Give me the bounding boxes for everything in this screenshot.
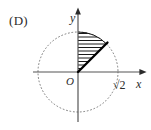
shaded-sector <box>70 34 112 72</box>
radius-label-sqrt2: √2 <box>113 78 126 92</box>
coordinate-diagram: y x O √2 <box>0 0 151 130</box>
terminal-ray <box>78 43 108 73</box>
x-axis-label: x <box>135 77 142 91</box>
figure-container: (D) <box>0 0 151 130</box>
origin-label: O <box>66 75 74 87</box>
y-axis-label: y <box>69 11 76 25</box>
